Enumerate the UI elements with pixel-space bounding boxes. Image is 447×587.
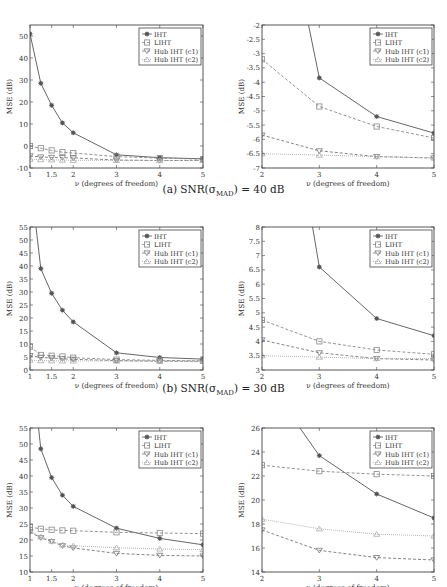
plot-area [259,0,437,161]
x-tick-label: 2 [71,575,75,583]
series-line-hub-iht-c1- [262,135,434,158]
series-line-iht [262,0,434,133]
legend-entry: Hub IHT (c1) [385,250,430,258]
chart-panel-c-right: 141618202224262345ν (degrees of freedom)… [262,428,434,572]
y-tick-label: 45 [19,457,28,465]
caption-a: (a) SNR(σMAD) = 40 dB [0,183,447,198]
y-tick-label: 25 [19,302,28,310]
y-tick-label: -4 [253,79,260,87]
y-tick-label: 25 [19,521,28,529]
legend: IHTLIHTHub IHT (c1)Hub IHT (c2) [139,28,201,65]
chart-panel-b-right: 33.544.555.566.577.582345ν (degrees of f… [262,227,434,370]
legend-entry: LIHT [385,442,403,450]
legend-entry: IHT [385,434,398,442]
chart-panel-c-left: 1015202530354045505511.52345ν (degrees o… [30,428,203,572]
y-tick-label: 5.5 [249,295,260,303]
plot-svg: 33.544.555.566.577.582345ν (degrees of f… [262,227,434,370]
x-tick-label: 3 [114,171,118,179]
y-tick-label: 4 [256,338,261,346]
legend-entry: LIHT [154,442,172,450]
x-tick-label: 5 [201,373,205,381]
x-tick-label: 3 [317,575,321,583]
legend: IHTLIHTHub IHT (c1)Hub IHT (c2) [370,431,432,468]
plot-svg: -7-6.5-6-5.5-5-4.5-4-3.5-3-2.5-22345ν (d… [262,25,434,168]
legend-entry: Hub IHT (c1) [385,48,430,56]
y-tick-label: 16 [251,545,260,553]
legend: IHTLIHTHub IHT (c1)Hub IHT (c2) [139,230,201,267]
caption-b-suffix: ) = 30 dB [234,382,285,394]
data-point-marker [374,532,380,537]
plot-svg: 141618202224262345ν (degrees of freedom)… [262,428,434,572]
legend: IHTLIHTHub IHT (c1)Hub IHT (c2) [370,28,432,65]
y-tick-label: 20 [19,315,28,323]
chart-panel-b-left: 051015202530354045505511.52345ν (degrees… [30,227,203,370]
chart-panel-a-left: -100102030405011.52345ν (degrees of free… [30,25,203,168]
x-tick-label: 2 [71,373,75,381]
y-tick-label: 20 [251,497,260,505]
y-tick-label: 55 [19,425,28,433]
y-tick-label: 30 [19,505,28,513]
y-tick-label: -2 [253,22,260,30]
y-axis-label: MSE (dB) [5,482,14,518]
x-tick-label: 4 [158,373,163,381]
y-axis-label: MSE (dB) [237,281,246,317]
legend-entry: LIHT [154,39,172,47]
x-axis-label: ν (degrees of freedom) [306,583,389,587]
y-tick-label: 8 [256,224,260,232]
legend-entry: Hub IHT (c2) [154,258,199,266]
y-tick-label: 10 [19,569,28,577]
legend-entry: Hub IHT (c2) [385,258,430,266]
chart-panel-a-right: -7-6.5-6-5.5-5-4.5-4-3.5-3-2.5-22345ν (d… [262,25,434,168]
y-tick-label: 6.5 [249,266,260,274]
legend-entry: Hub IHT (c1) [385,451,430,459]
y-tick-label: 40 [19,263,28,271]
y-tick-label: 50 [19,237,28,245]
y-tick-label: 50 [19,441,28,449]
plot-svg: 051015202530354045505511.52345ν (degrees… [30,227,203,370]
x-tick-label: 1 [28,171,32,179]
legend-entry: Hub IHT (c2) [154,459,199,467]
legend: IHTLIHTHub IHT (c1)Hub IHT (c2) [370,230,432,267]
x-tick-label: 1.5 [46,575,57,583]
legend-entry: LIHT [154,241,172,249]
y-tick-label: 7.5 [249,238,260,246]
x-tick-label: 2 [71,171,75,179]
y-tick-label: 5 [256,309,260,317]
y-tick-label: -4.5 [247,93,261,101]
x-tick-label: 2 [260,171,264,179]
x-tick-label: 2 [260,373,264,381]
y-tick-label: 0 [24,143,28,151]
y-tick-label: 15 [19,328,28,336]
series-line-liht [262,59,434,138]
caption-a-sub: MAD [216,190,234,198]
series-line-hub-iht-c2- [262,519,434,536]
y-tick-label: 6 [256,281,261,289]
y-tick-label: 30 [19,77,28,85]
legend-entry: LIHT [385,39,403,47]
y-tick-label: -3.5 [247,64,261,72]
y-tick-label: 40 [19,55,28,63]
y-tick-label: 5 [24,354,28,362]
y-tick-label: 55 [19,224,28,232]
series-line-hub-iht-c1- [262,530,434,560]
y-tick-label: -5.5 [247,122,261,130]
y-axis-label: MSE (dB) [5,79,14,115]
series-line-hub-iht-c1- [30,532,203,556]
y-tick-label: 18 [251,521,260,529]
x-tick-label: 2 [260,575,264,583]
caption-b-prefix: (b) SNR(σ [162,382,216,394]
y-tick-label: 15 [19,553,28,561]
y-axis-label: MSE (dB) [237,482,246,518]
caption-a-suffix: ) = 40 dB [234,183,285,195]
legend-entry: Hub IHT (c2) [385,459,430,467]
legend-entry: IHT [154,31,167,39]
x-tick-label: 1.5 [46,373,57,381]
y-axis-label: MSE (dB) [5,281,14,317]
x-tick-label: 5 [432,575,436,583]
x-tick-label: 5 [201,171,205,179]
y-tick-label: -10 [17,165,28,173]
x-tick-label: 1.5 [46,171,57,179]
series-line-hub-iht-c2- [30,531,203,550]
y-tick-label: -2.5 [247,36,261,44]
legend-entry: Hub IHT (c1) [154,48,199,56]
